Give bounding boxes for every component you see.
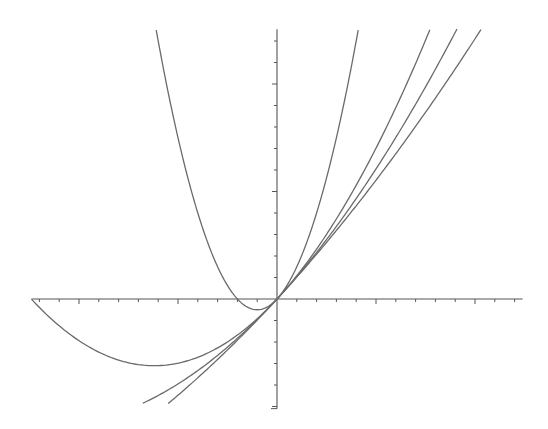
curve-middle [143,29,457,403]
y-axis [271,29,277,408]
curve-steep-parabola [156,30,358,310]
curve-wide-parabola [31,30,429,366]
curve-flattest [168,30,481,404]
curves [31,29,480,404]
function-plot [0,0,548,429]
